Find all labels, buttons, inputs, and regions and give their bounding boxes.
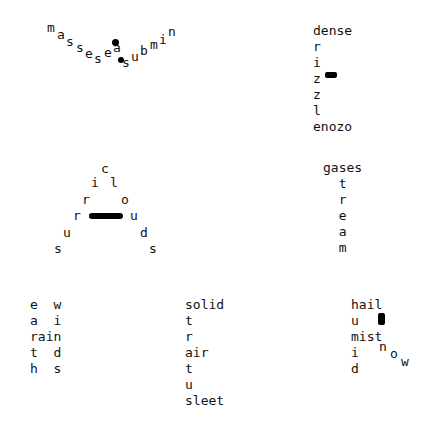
- puzzle-line: hail: [351, 297, 382, 313]
- puzzle-letter: d: [140, 226, 148, 239]
- puzzle-line: z: [313, 71, 321, 87]
- puzzle-letter: n: [168, 25, 176, 38]
- puzzle-letter: s: [76, 41, 84, 54]
- puzzle-line: i: [313, 55, 321, 71]
- puzzle-line: rain: [30, 329, 61, 345]
- ink-blot-mark: [89, 213, 123, 219]
- ink-blot-mark: [112, 39, 119, 46]
- puzzle-letter: s: [149, 242, 157, 255]
- puzzle-letter: u: [131, 50, 139, 63]
- puzzle-letter: r: [73, 209, 81, 222]
- puzzle-letter: o: [390, 347, 398, 360]
- puzzle-letter: s: [94, 52, 102, 65]
- puzzle-line: a: [323, 224, 346, 240]
- puzzle-line: r: [323, 192, 346, 208]
- puzzle-line: d: [351, 361, 359, 377]
- puzzle-line: h s: [30, 361, 61, 377]
- puzzle-line: m: [323, 240, 346, 256]
- puzzle-letter: c: [101, 162, 109, 175]
- puzzle-line: solid: [185, 297, 224, 313]
- puzzle-line: z: [313, 87, 321, 103]
- puzzle-line: u: [185, 377, 193, 393]
- puzzle-line: t: [185, 361, 193, 377]
- puzzle-letter: s: [66, 35, 74, 48]
- puzzle-line: a i: [30, 313, 61, 329]
- puzzle-line: mist: [351, 329, 382, 345]
- puzzle-letter: o: [121, 193, 129, 206]
- ink-blot-mark: [118, 57, 124, 63]
- puzzle-letter: l: [110, 176, 118, 189]
- puzzle-line: i: [351, 345, 359, 361]
- puzzle-letter: i: [159, 33, 167, 46]
- puzzle-letter: n: [379, 340, 387, 353]
- puzzle-letter: i: [91, 176, 99, 189]
- puzzle-line: r: [313, 39, 321, 55]
- ink-blot-mark: [378, 313, 385, 325]
- puzzle-letter: s: [54, 242, 62, 255]
- puzzle-line: t d: [30, 345, 61, 361]
- puzzle-line: e w: [30, 297, 61, 313]
- puzzle-line: dense: [313, 23, 352, 39]
- puzzle-letter: u: [63, 226, 71, 239]
- puzzle-line: sleet: [185, 393, 224, 409]
- puzzle-letter: e: [85, 47, 93, 60]
- puzzle-letter: m: [150, 38, 158, 51]
- puzzle-letter: b: [140, 44, 148, 57]
- puzzle-letter: w: [401, 355, 409, 368]
- puzzle-line: l: [313, 103, 321, 119]
- puzzle-line: gases: [323, 160, 362, 176]
- puzzle-letter: r: [82, 193, 90, 206]
- puzzle-letter: e: [104, 46, 112, 59]
- puzzle-letter: a: [57, 28, 65, 41]
- puzzle-line: t: [323, 176, 346, 192]
- puzzle-line: air: [185, 345, 208, 361]
- ink-blot-mark: [325, 72, 337, 78]
- word-puzzle-canvas: masseseasubmindenserizzlenozocilroruudss…: [0, 0, 431, 433]
- puzzle-letter: u: [130, 209, 138, 222]
- puzzle-line: u: [351, 313, 359, 329]
- puzzle-line: t: [185, 313, 193, 329]
- puzzle-letter: m: [47, 21, 55, 34]
- puzzle-line: enozo: [313, 119, 352, 135]
- puzzle-line: r: [185, 329, 193, 345]
- puzzle-line: e: [323, 208, 346, 224]
